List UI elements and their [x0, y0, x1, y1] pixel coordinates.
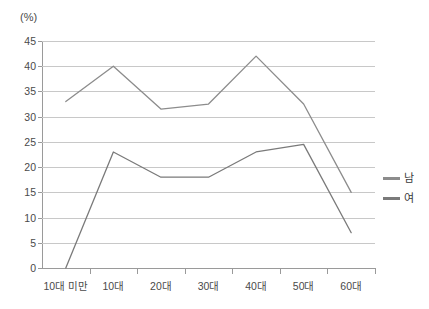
x-tick-label: 20대 — [150, 278, 172, 293]
x-tick-mark — [375, 269, 376, 274]
x-tick-label: 10대 — [103, 278, 125, 293]
series-line-여 — [66, 144, 351, 268]
line-chart: (%) 051015202530354045 10대 미만10대20대30대40… — [0, 0, 429, 309]
x-tick-label: 50대 — [293, 278, 315, 293]
x-tick-mark — [327, 269, 328, 274]
x-tick-label: 10대 미만 — [43, 278, 88, 293]
x-tick-label: 30대 — [198, 278, 220, 293]
legend-swatch-icon — [383, 197, 400, 200]
plot-area — [42, 41, 375, 268]
y-tick-label: 30 — [24, 111, 36, 123]
x-tick-mark — [137, 269, 138, 274]
chart-legend: 남여 — [383, 170, 429, 210]
x-tick-mark — [185, 269, 186, 274]
y-tick-label: 0 — [30, 262, 36, 274]
x-tick-mark — [90, 269, 91, 274]
x-tick-label: 60대 — [340, 278, 362, 293]
y-tick-label: 20 — [24, 161, 36, 173]
x-tick-mark — [232, 269, 233, 274]
x-tick-label: 40대 — [245, 278, 267, 293]
legend-item-남[interactable]: 남 — [383, 170, 429, 186]
legend-item-여[interactable]: 여 — [383, 190, 429, 206]
y-axis-unit-label: (%) — [20, 11, 37, 23]
y-tick-label: 40 — [24, 60, 36, 72]
x-axis-ticks: 10대 미만10대20대30대40대50대60대 — [42, 269, 376, 299]
y-tick-label: 5 — [30, 237, 36, 249]
y-tick-label: 25 — [24, 136, 36, 148]
y-tick-label: 45 — [24, 35, 36, 47]
legend-label: 남 — [404, 173, 414, 184]
legend-swatch-icon — [383, 177, 400, 180]
legend-label: 여 — [404, 193, 414, 204]
y-tick-label: 10 — [24, 212, 36, 224]
y-tick-label: 35 — [24, 85, 36, 97]
x-tick-mark — [280, 269, 281, 274]
y-tick-label: 15 — [24, 186, 36, 198]
series-line-남 — [66, 56, 351, 192]
series-lines — [42, 41, 375, 268]
